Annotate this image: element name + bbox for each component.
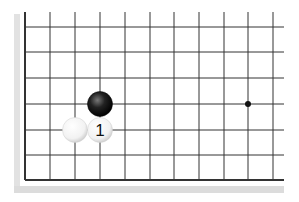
star-point [245, 101, 251, 107]
black-stone [88, 92, 113, 117]
go-board-diagram: 1 [0, 0, 299, 202]
white-stone [63, 118, 88, 143]
move-number-label: 1 [95, 121, 104, 140]
board-grid [25, 12, 284, 180]
star-points [245, 101, 251, 107]
stones: 1 [63, 92, 113, 143]
white-stone: 1 [88, 118, 113, 143]
